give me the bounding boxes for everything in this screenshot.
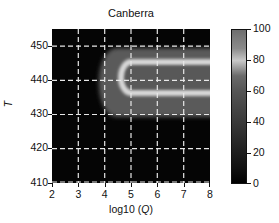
colorbar-label: 0	[253, 177, 259, 189]
colorbar	[231, 29, 247, 184]
xtick-label: 3	[68, 188, 88, 200]
colorbar-label: 100	[253, 22, 271, 34]
xtick-label: 8	[200, 188, 220, 200]
colorbar-tick	[247, 153, 251, 154]
chart-title: Canberra	[52, 7, 210, 19]
ytick-label: 410	[20, 176, 48, 188]
ytick-label: 440	[20, 73, 48, 85]
x-axis-label-prefix: log10 (	[109, 203, 141, 215]
xtick-mark	[184, 183, 185, 187]
ytick-label: 450	[20, 39, 48, 51]
x-axis-label: log10 (Q)	[52, 203, 210, 215]
colorbar-tick	[247, 60, 251, 61]
ytick-label: 430	[20, 107, 48, 119]
ytick-label: 420	[20, 141, 48, 153]
xtick-mark	[209, 183, 210, 187]
colorbar-tick	[247, 29, 251, 30]
ytick-mark	[48, 114, 52, 115]
xtick-label: 4	[95, 188, 115, 200]
colorbar-label: 60	[253, 84, 265, 96]
heatmap-image	[52, 29, 210, 183]
ytick-mark	[48, 80, 52, 81]
ytick-mark	[48, 46, 52, 47]
xtick-mark	[157, 183, 158, 187]
colorbar-tick	[247, 91, 251, 92]
colorbar-label: 80	[253, 53, 265, 65]
xtick-mark	[78, 183, 79, 187]
colorbar-tick	[247, 183, 251, 184]
xtick-label: 6	[147, 188, 167, 200]
x-axis-label-suffix: )	[149, 203, 153, 215]
xtick-label: 2	[42, 188, 62, 200]
colorbar-tick	[247, 122, 251, 123]
xtick-label: 7	[174, 188, 194, 200]
colorbar-label: 20	[253, 146, 265, 158]
heatmap-plot-area	[52, 29, 210, 183]
xtick-mark	[52, 183, 53, 187]
ytick-mark	[48, 148, 52, 149]
xtick-mark	[105, 183, 106, 187]
xtick-mark	[131, 183, 132, 187]
xtick-label: 5	[121, 188, 141, 200]
y-axis-label: T	[2, 101, 14, 107]
colorbar-label: 40	[253, 115, 265, 127]
